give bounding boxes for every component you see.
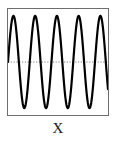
plot-area-border [7, 8, 109, 116]
waveform-figure: X [0, 0, 116, 141]
waveform-plot [8, 9, 108, 115]
x-axis-label: X [0, 118, 116, 138]
